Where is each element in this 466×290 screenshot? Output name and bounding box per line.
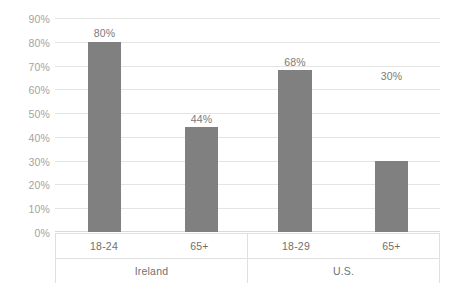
y-tick-label: 0% (6, 228, 50, 239)
category-label-ireland-18-24: 18-24 (56, 233, 152, 258)
category-label-us-65plus: 65+ (344, 233, 439, 258)
category-axis-inner: 18-24 65+ 18-29 65+ (55, 233, 440, 258)
gridline (55, 18, 440, 19)
y-tick-label: 50% (6, 109, 50, 120)
bar-ireland-18-24[interactable] (88, 42, 121, 232)
y-tick-label: 60% (6, 85, 50, 96)
y-axis: 90% 80% 70% 60% 50% 40% 30% 20% 10% 0% (0, 18, 50, 232)
y-tick-label: 20% (6, 180, 50, 191)
y-tick-label: 30% (6, 157, 50, 168)
y-tick-label: 10% (6, 204, 50, 215)
bar-chart: 90% 80% 70% 60% 50% 40% 30% 20% 10% 0% 8… (0, 0, 466, 290)
bar-us-65plus[interactable] (375, 161, 408, 232)
bar-ireland-65plus[interactable] (185, 127, 218, 232)
category-label-us-18-29: 18-29 (248, 233, 344, 258)
plot-area: 80% 44% 68% 30% (55, 18, 440, 232)
bar-us-18-29[interactable] (278, 70, 312, 232)
group-label-us: U.S. (248, 258, 439, 283)
bar-value-label: 30% (362, 71, 421, 82)
bar-value-label: 44% (172, 114, 231, 125)
y-tick-label: 90% (6, 14, 50, 25)
category-axis-outer: Ireland U.S. (55, 258, 440, 283)
y-tick-label: 80% (6, 38, 50, 49)
bar-value-label: 68% (265, 57, 325, 68)
bar-value-label: 80% (75, 28, 134, 39)
group-label-ireland: Ireland (56, 258, 247, 283)
category-label-ireland-65plus: 65+ (152, 233, 247, 258)
y-tick-label: 40% (6, 133, 50, 144)
y-tick-label: 70% (6, 62, 50, 73)
